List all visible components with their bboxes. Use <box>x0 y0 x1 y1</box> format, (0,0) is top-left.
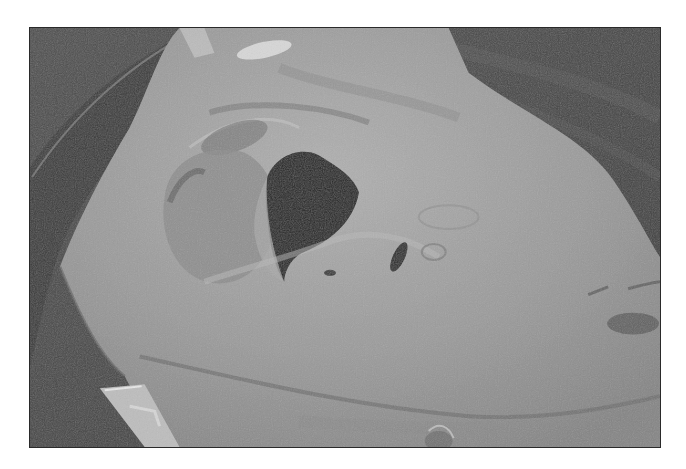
micrograph-frame <box>29 27 661 448</box>
sem-micrograph <box>30 28 660 447</box>
right-depression <box>607 313 659 335</box>
pore <box>324 270 336 276</box>
